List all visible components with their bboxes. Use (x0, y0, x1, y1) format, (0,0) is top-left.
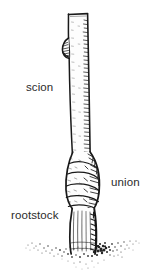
stem-bud-node (62, 38, 69, 59)
label-scion: scion (26, 81, 53, 93)
graft-diagram-figure: scion union rootstock (0, 0, 153, 278)
rootstock-part (69, 208, 96, 254)
union-part (66, 152, 100, 212)
grafted-stem-illustration (0, 0, 153, 278)
label-union: union (111, 176, 140, 188)
label-rootstock: rootstock (11, 209, 59, 221)
scion-part (62, 14, 90, 160)
